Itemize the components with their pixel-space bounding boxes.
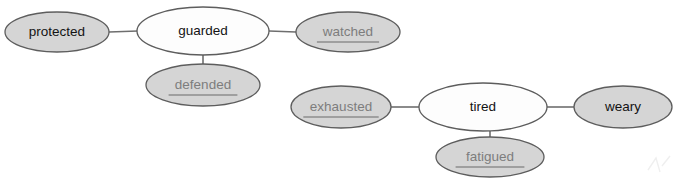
node-tired[interactable]: tired xyxy=(419,83,547,131)
node-label-watched: watched xyxy=(322,24,373,39)
synonym-graph-diagram: protectedguardedwatcheddefendedexhausted… xyxy=(0,0,680,188)
node-label-guarded: guarded xyxy=(178,23,228,38)
node-watched[interactable]: watched xyxy=(296,12,400,52)
graph-canvas: protectedguardedwatcheddefendedexhausted… xyxy=(0,0,680,188)
node-label-defended: defended xyxy=(175,77,231,92)
node-weary[interactable]: weary xyxy=(574,86,672,128)
node-fatigued[interactable]: fatigued xyxy=(436,137,544,177)
node-protected[interactable]: protected xyxy=(5,12,109,52)
node-guarded[interactable]: guarded xyxy=(137,7,269,55)
edge-protected-guarded xyxy=(109,31,138,32)
node-label-tired: tired xyxy=(470,99,496,114)
node-label-protected: protected xyxy=(29,24,85,39)
node-exhausted[interactable]: exhausted xyxy=(291,86,391,128)
node-label-exhausted: exhausted xyxy=(310,99,372,114)
node-label-weary: weary xyxy=(604,99,641,114)
node-defended[interactable]: defended xyxy=(146,64,260,106)
edge-guarded-watched xyxy=(269,31,296,32)
node-label-fatigued: fatigued xyxy=(466,149,514,164)
